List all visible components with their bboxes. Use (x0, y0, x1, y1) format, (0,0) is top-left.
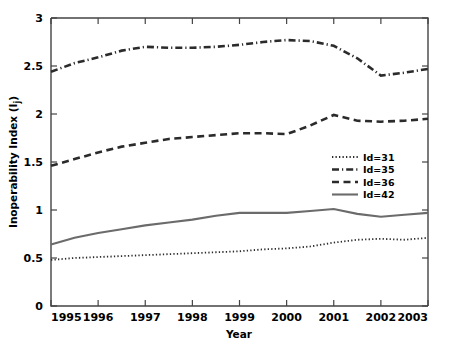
legend-label-id35: Id=35 (363, 164, 395, 175)
x-tick-label: 2000 (271, 311, 302, 324)
legend-label-id36: Id=36 (363, 177, 395, 188)
y-tick-label: 1 (35, 204, 43, 217)
x-tick-label: 2002 (366, 311, 397, 324)
chart-figure: 00.511.522.53 19951996199719981999200020… (0, 0, 450, 354)
x-axis-label: Year (225, 328, 253, 340)
y-tick-label: 0.5 (24, 252, 44, 265)
y-tick-label: 2 (35, 108, 43, 121)
y-tick-label: 0 (35, 300, 43, 313)
y-tick-label: 1.5 (24, 156, 44, 169)
legend-label-id31: Id=31 (363, 152, 395, 163)
x-tick-label: 1998 (177, 311, 208, 324)
y-axis-label-main: Inoperability Index (I (7, 104, 19, 228)
x-tick-label: 1995 (51, 311, 82, 324)
x-tick-label: 1996 (83, 311, 114, 324)
x-tick-label: 2001 (318, 311, 349, 324)
x-tick-label: 1997 (130, 311, 161, 324)
x-tick-label: 2003 (397, 311, 428, 324)
legend-label-id42: Id=42 (363, 189, 395, 200)
y-tick-label: 2.5 (24, 60, 44, 73)
y-tick-label: 3 (35, 12, 43, 25)
x-tick-label: 1999 (224, 311, 255, 324)
y-axis-label-close: ) (7, 96, 19, 101)
